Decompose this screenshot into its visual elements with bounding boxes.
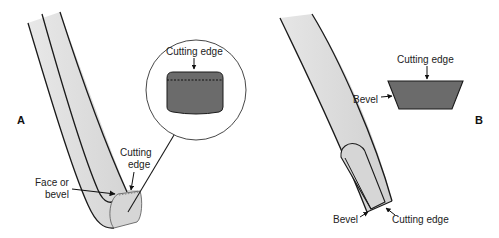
tip-cutting-edge-label-b: Cutting edge xyxy=(392,214,449,225)
tip-bevel-label-b: Bevel xyxy=(333,214,358,225)
blade-cross-section-a xyxy=(167,72,223,114)
inset-cutting-edge-label-a: Cutting edge xyxy=(166,46,223,57)
panel-a: Cutting edge A Cutting edge Face or beve… xyxy=(17,12,246,228)
face-label-line1: Face or xyxy=(35,177,70,188)
cutting-edge-label-a-line2: edge xyxy=(128,159,151,170)
inset-bevel-label-b: Bevel xyxy=(353,94,378,105)
face-label-line2: bevel xyxy=(45,189,69,200)
inset-cutting-edge-label-b: Cutting edge xyxy=(397,54,454,65)
instrument-diagram: Cutting edge A Cutting edge Face or beve… xyxy=(0,0,499,238)
panel-label-b: B xyxy=(475,114,483,126)
blade-cross-section-b xyxy=(388,81,463,109)
panel-label-a: A xyxy=(17,114,25,126)
panel-b: Cutting edge Bevel B Bevel Cutting edge xyxy=(280,14,483,225)
cutting-edge-label-a-line1: Cutting xyxy=(120,147,152,158)
